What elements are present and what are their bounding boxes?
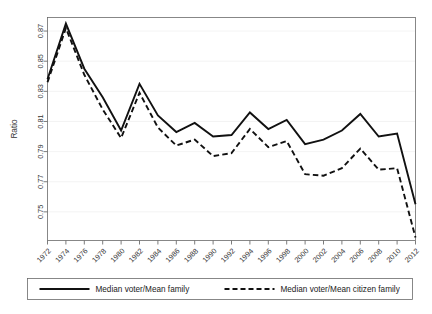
x-axis-ticks: 1972197419761978198019821984198619881990… (35, 241, 421, 265)
y-tick-label: 0.75 (36, 205, 45, 219)
x-tick-label: 2008 (366, 247, 384, 265)
x-tick-label: 1996 (256, 247, 274, 265)
line-chart: 0.750.770.790.810.830.850.87 19721974197… (0, 0, 432, 314)
y-tick-label: 0.77 (36, 175, 45, 189)
chart-figure: 0.750.770.790.810.830.850.87 19721974197… (0, 0, 432, 314)
gridlines (48, 31, 416, 212)
x-tick-label: 1994 (237, 247, 255, 265)
y-axis-label: Ratio (10, 119, 19, 139)
y-tick-label: 0.79 (36, 144, 45, 158)
x-tick-label: 2000 (292, 247, 310, 265)
x-tick-label: 2012 (403, 247, 421, 265)
x-tick-label: 2002 (311, 247, 329, 265)
x-tick-label: 2006 (348, 247, 366, 265)
x-tick-label: 1980 (108, 247, 126, 265)
x-tick-label: 1990 (200, 247, 218, 265)
y-axis-ticks: 0.750.770.790.810.830.850.87 (36, 24, 48, 219)
x-tick-label: 1992 (219, 247, 237, 265)
x-tick-label: 1988 (182, 247, 200, 265)
chart-legend: Median voter/Mean familyMedian voter/Mea… (28, 279, 413, 300)
legend-label: Median voter/Mean family (96, 285, 191, 294)
y-tick-label: 0.83 (36, 84, 45, 98)
x-tick-label: 1974 (53, 247, 71, 265)
x-tick-label: 1984 (145, 247, 163, 265)
series-line-2 (48, 28, 416, 237)
y-tick-label: 0.81 (36, 114, 45, 128)
x-tick-label: 1972 (35, 247, 53, 265)
x-tick-label: 1998 (274, 247, 292, 265)
y-tick-label: 0.85 (36, 54, 45, 68)
x-tick-label: 1978 (90, 247, 108, 265)
x-tick-label: 1986 (164, 247, 182, 265)
y-tick-label: 0.87 (36, 24, 45, 38)
legend-label: Median voter/Mean citizen family (281, 285, 401, 294)
series-line-1 (48, 24, 416, 205)
series-group (48, 24, 416, 238)
x-tick-label: 2010 (384, 247, 402, 265)
plot-frame (48, 18, 416, 241)
x-tick-label: 2004 (329, 247, 347, 265)
x-tick-label: 1976 (72, 247, 90, 265)
x-tick-label: 1982 (127, 247, 145, 265)
